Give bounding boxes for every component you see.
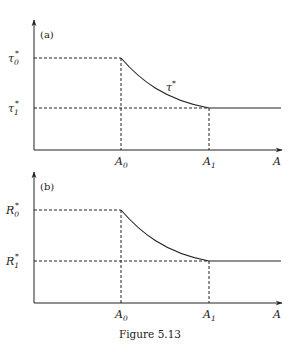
figure-canvas: (a) τ0* τ1* τ* A0 A1 A (b) R0* R1* A0 A1…	[0, 0, 300, 355]
curve-r-star	[121, 210, 281, 261]
curve-tau-star	[121, 58, 281, 108]
x-axis-label: A	[272, 308, 281, 321]
tick-tau1: τ1*	[8, 99, 19, 117]
tick-a0: A0	[114, 308, 128, 323]
panel-label-b: (b)	[40, 181, 54, 192]
tick-tau0: τ0*	[8, 49, 19, 67]
tick-r0: R0*	[5, 201, 19, 219]
curve-label-tau-star: τ*	[166, 79, 176, 94]
panel-label-a: (a)	[40, 29, 54, 40]
tick-a1: A1	[202, 308, 216, 323]
x-axis-label: A	[272, 155, 281, 168]
figure-caption: Figure 5.13	[0, 328, 300, 340]
panel-a: (a) τ0* τ1* τ* A0 A1 A	[8, 20, 282, 170]
tick-a1: A1	[202, 155, 216, 170]
tick-a0: A0	[114, 155, 128, 170]
panel-b: (b) R0* R1* A0 A1 A	[5, 172, 282, 323]
tick-r1: R1*	[5, 252, 19, 270]
